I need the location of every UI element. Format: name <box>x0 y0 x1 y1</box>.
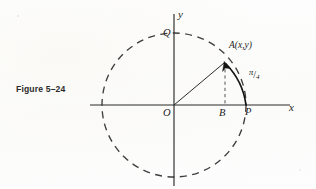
x-axis-label: x <box>289 101 294 113</box>
point-label-b: B <box>219 107 225 118</box>
angle-label: π/4 <box>249 68 260 81</box>
point-label-origin: O <box>163 107 171 118</box>
scan-speckle <box>17 15 19 17</box>
unit-circle-diagram <box>0 0 316 189</box>
scan-speckle <box>299 169 301 171</box>
angle-denominator: 4 <box>256 73 260 81</box>
point-label-a: A(x,y) <box>229 40 252 50</box>
figure-page: Figure 5–24 y x Q O B P A(x,y) π/4 <box>0 0 316 189</box>
y-axis-label: y <box>178 8 183 20</box>
point-label-q: Q <box>163 27 171 38</box>
point-label-p: P <box>245 106 251 117</box>
radius-line-oa <box>174 63 224 105</box>
